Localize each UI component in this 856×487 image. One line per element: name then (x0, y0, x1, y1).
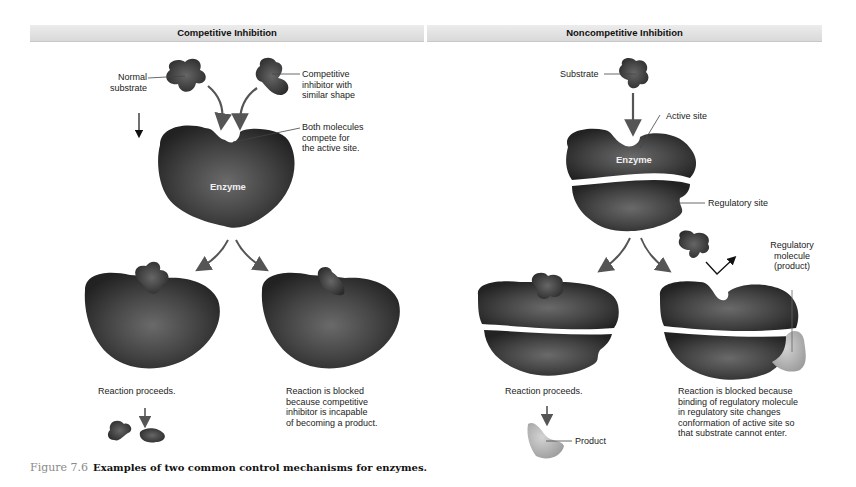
reaction-proceeds-label-left: Reaction proceeds. (98, 386, 176, 397)
both-molecules-compete-label: Both molecules compete for the active si… (302, 122, 364, 154)
enzyme-label-right: Enzyme (616, 155, 652, 166)
caption-text: Examples of two common control mechanism… (93, 462, 427, 473)
substrate-label: Substrate (560, 69, 599, 80)
figure-caption: Figure 7.6Examples of two common control… (30, 461, 427, 474)
competitive-inhibitor-molecule (256, 58, 289, 95)
enzyme-label-left: Enzyme (210, 182, 246, 193)
reaction-proceeds-label-right: Reaction proceeds. (505, 386, 583, 397)
regulatory-molecule-label: Regulatory molecule (product) (762, 240, 822, 272)
competitive-inhibitor-label: Competitive inhibitor with similar shape (302, 69, 355, 101)
product-label: Product (575, 436, 606, 447)
normal-substrate-molecule (166, 59, 205, 92)
regulatory-site-label: Regulatory site (708, 198, 768, 209)
figure-number: Figure 7.6 (30, 461, 88, 474)
normal-substrate-label: Normal substrate (103, 72, 147, 93)
active-site-label: Active site (666, 111, 707, 122)
reaction-blocked-label-right: Reaction is blocked because binding of r… (678, 386, 798, 439)
reaction-blocked-label-left: Reaction is blocked because competitive … (286, 386, 378, 428)
